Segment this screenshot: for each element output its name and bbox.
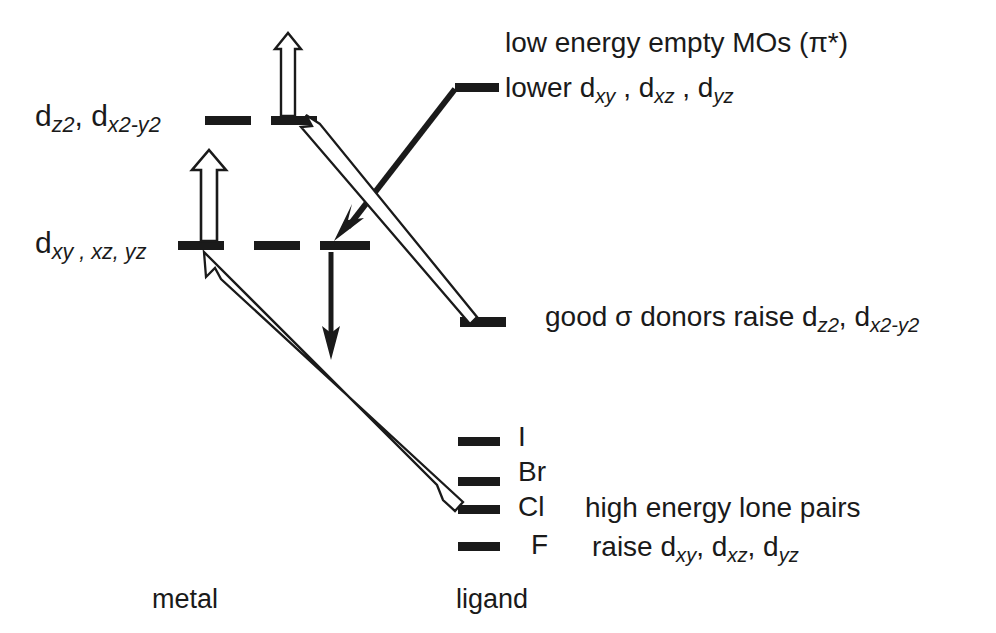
metal-t2g-level-bars (178, 241, 370, 250)
metal-eg-orbital-label: dz2, dx2-y2 (35, 101, 161, 136)
sigma-mid: , d (839, 301, 870, 332)
ligand-pi-star-bar (455, 83, 499, 92)
ligand-lone-pair-bar-I (458, 437, 500, 446)
raise-prefix: raise d (592, 531, 676, 562)
lower-d-sub-xz: xz (654, 85, 674, 107)
metal-t2g-orbital-label: dxy , xz, yz (35, 228, 146, 263)
ligand-lone-pair-bar-Br (458, 477, 500, 486)
ligand-lone-pair-bar-F (458, 542, 500, 551)
eg-up-outline-arrow (275, 33, 301, 116)
t2g-down-solid-arrow (322, 252, 340, 360)
energy-level-bar (178, 241, 224, 250)
eg-sub-z2: z2 (52, 112, 75, 137)
ligand-lone-pair-bar-Cl (458, 505, 500, 514)
energy-level-bar (254, 241, 300, 250)
axis-label-metal: metal (152, 586, 218, 613)
energy-level-bar (205, 116, 251, 125)
halide-label-chlorine: Cl (518, 493, 544, 521)
orbital-diagram-page: dz2, dx2-y2 dxy , xz, yz low energy empt… (0, 0, 996, 633)
halide-label-fluorine: F (531, 531, 548, 559)
pi-star-annotation: low energy empty MOs (π*) (505, 29, 848, 57)
lower-d-annotation: lower dxy , dxz , dyz (505, 74, 734, 106)
sigma-sub-x2y2: x2-y2 (870, 314, 919, 336)
lower-d-prefix: lower d (505, 72, 595, 103)
axis-label-ligand: ligand (456, 586, 528, 613)
lower-d-sub-xy: xy (595, 85, 615, 107)
lower-d-mid2: , d (675, 72, 714, 103)
raise-sub-xz: xz (727, 544, 747, 566)
halide-label-bromine: Br (518, 458, 546, 486)
raise-mid1: , d (696, 531, 727, 562)
raise-mid2: , d (748, 531, 779, 562)
t2g-sub-xyxzyz: xy , xz, yz (52, 239, 147, 264)
halide-label-iodine: I (518, 423, 526, 451)
raise-sub-xy: xy (676, 544, 696, 566)
eg-sub-x2y2: x2-y2 (108, 112, 161, 137)
raise-sub-yz: yz (779, 544, 799, 566)
lower-d-sub-yz: yz (713, 85, 733, 107)
sigma-donor-to-eg-outline-arrow (301, 115, 477, 324)
energy-level-bar (320, 241, 370, 250)
raise-d-annotation: raise dxy, dxz, dyz (592, 533, 799, 565)
high-energy-lone-pairs-annotation: high energy lone pairs (585, 494, 861, 522)
sigma-prefix: good σ donors raise d (545, 301, 818, 332)
lower-d-mid1: , d (615, 72, 654, 103)
metal-eg-level-bars (205, 116, 317, 125)
t2g-up-outline-arrow (192, 150, 226, 241)
sigma-donor-annotation: good σ donors raise dz2, dx2-y2 (545, 303, 919, 335)
sigma-sub-z2: z2 (818, 314, 839, 336)
